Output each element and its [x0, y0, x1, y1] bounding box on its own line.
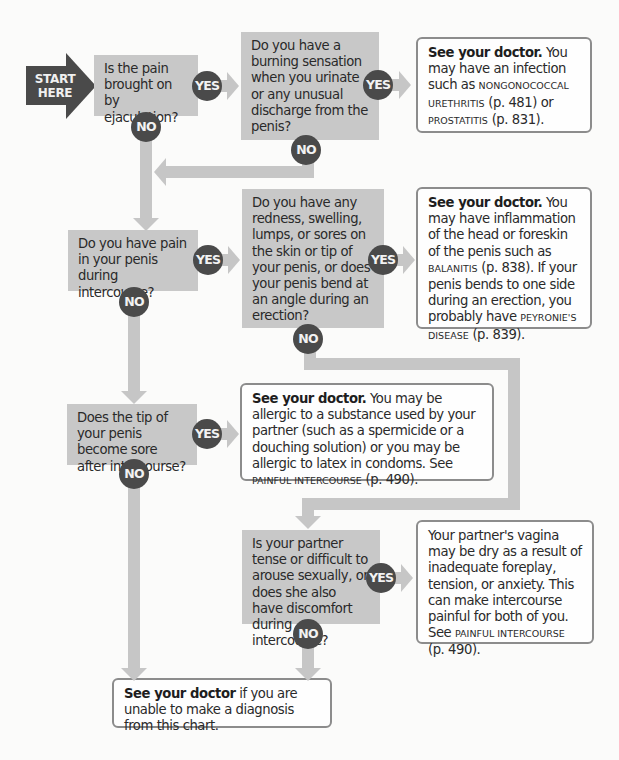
yes-badge: YES	[192, 71, 222, 101]
no-badge: NO	[131, 112, 161, 142]
yes-badge: YES	[193, 245, 223, 275]
no-badge: NO	[293, 324, 323, 354]
arrow-right-icon	[228, 246, 240, 274]
arrow-down-icon	[295, 668, 321, 681]
question-ejaculation: Is the pain brought on by ejaculation?	[94, 55, 198, 116]
arrow-right-icon	[403, 246, 415, 274]
no-badge: NO	[119, 287, 149, 317]
answer-partner-dry: Your partner's vagina may be dry as a re…	[416, 520, 594, 644]
arrow-down-icon	[121, 391, 147, 404]
connector	[304, 358, 520, 370]
answer-allergic: See your doctor. You may be allergic to …	[240, 383, 494, 481]
no-badge: NO	[119, 459, 149, 489]
start-here-arrow: STARTHERE	[26, 53, 96, 119]
question-redness-sores: Do you have any redness, swelling, lumps…	[242, 189, 384, 328]
connector	[140, 140, 152, 220]
arrow-right-icon	[227, 72, 239, 100]
arrow-right-icon	[399, 71, 411, 99]
answer-infection: See your doctor. You may have an infecti…	[416, 37, 592, 133]
arrow-down-icon	[295, 516, 321, 529]
connector	[302, 498, 520, 510]
question-partner-tense: Is your partner tense or difficult to ar…	[242, 530, 380, 624]
question-tip-sore: Does the tip of your penis become sore a…	[67, 404, 197, 465]
arrow-right-icon	[227, 420, 239, 448]
connector	[166, 166, 314, 178]
question-burning-discharge: Do you have a burning sensation when you…	[241, 32, 379, 140]
arrow-left-icon	[154, 158, 166, 186]
question-pain-intercourse: Do you have pain in your penis during in…	[68, 230, 198, 291]
no-badge: NO	[291, 135, 321, 165]
connector	[128, 315, 140, 393]
arrow-right-icon	[401, 564, 413, 592]
arrow-down-icon	[121, 668, 147, 681]
connector	[302, 498, 314, 518]
connector	[508, 358, 520, 510]
no-badge: NO	[293, 619, 323, 649]
yes-badge: YES	[192, 419, 222, 449]
answer-final: See your doctor if you are unable to mak…	[112, 678, 332, 728]
connector	[128, 485, 140, 670]
yes-badge: YES	[363, 70, 393, 100]
arrow-down-icon	[133, 218, 159, 231]
answer-balanitis: See your doctor. You may have inflammati…	[416, 187, 592, 329]
yes-badge: YES	[366, 563, 396, 593]
start-label: STARTHERE	[26, 72, 84, 100]
yes-badge: YES	[368, 245, 398, 275]
